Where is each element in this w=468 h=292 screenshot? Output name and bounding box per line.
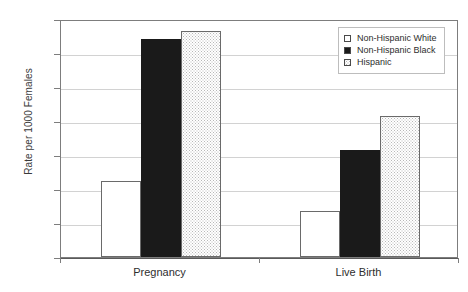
- dotted-square-icon: [344, 59, 351, 66]
- legend-item: Non-Hispanic White: [344, 33, 437, 44]
- x-tick-label: Live Birth: [289, 266, 429, 278]
- hollow-square-icon: [344, 35, 351, 42]
- bar: [300, 211, 340, 257]
- gridline: [61, 89, 457, 90]
- bar: [101, 181, 141, 258]
- legend-item: Non-Hispanic Black: [344, 45, 437, 56]
- bar: [380, 116, 420, 257]
- legend-item-label: Non-Hispanic Black: [357, 45, 436, 56]
- legend: Non-Hispanic WhiteNon-Hispanic BlackHisp…: [338, 27, 445, 74]
- legend-item-label: Hispanic: [357, 57, 392, 68]
- x-tick-mark: [60, 258, 61, 263]
- bar: [141, 39, 181, 257]
- x-tick-label: Pregnancy: [90, 266, 230, 278]
- x-tick-mark: [458, 258, 459, 263]
- bar-chart: Rate per 1000 Females 020406080100120140…: [0, 0, 468, 292]
- bar: [340, 150, 380, 257]
- x-tick-mark: [259, 258, 260, 263]
- bar: [181, 31, 221, 257]
- legend-item: Hispanic: [344, 57, 437, 68]
- legend-item-label: Non-Hispanic White: [357, 33, 437, 44]
- filled-square-icon: [344, 47, 351, 54]
- y-axis-title: Rate per 1000 Females: [23, 32, 34, 212]
